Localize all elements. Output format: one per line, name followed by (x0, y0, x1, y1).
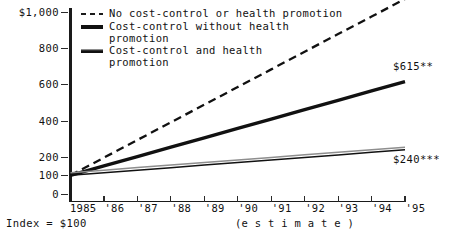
legend-label-cost-control-only: Cost-control without health promotion (109, 20, 289, 44)
legend-swatch-double-icon (80, 45, 104, 57)
legend-item-no-cost-control: No cost-control or health promotion (80, 7, 343, 20)
series-line-cost-control-only (71, 82, 406, 176)
legend-label-cost-control-and-health: Cost-control and health promotion (109, 44, 262, 68)
end-label-cost-control-and-health: $240*** (393, 154, 440, 165)
line-chart: $1,0008006004002001000 1985'86'87'88'89'… (0, 0, 449, 250)
legend-item-cost-control-only: Cost-control without health promotion (80, 20, 343, 44)
legend-label-no-cost-control: No cost-control or health promotion (109, 7, 343, 19)
chart-legend: No cost-control or health promotion Cost… (80, 7, 343, 68)
end-label-cost-control-only: $615** (393, 61, 433, 72)
legend-item-cost-control-and-health: Cost-control and health promotion (80, 44, 343, 68)
legend-swatch-solid-icon (80, 21, 104, 33)
legend-swatch-dashed-icon (80, 8, 104, 20)
